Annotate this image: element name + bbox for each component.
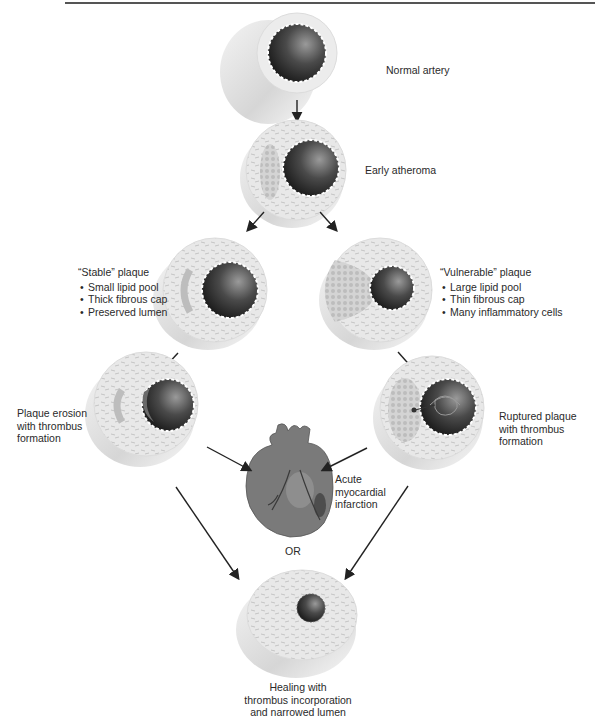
label-ruptured-plaque: Ruptured plaque with thrombus formation	[499, 410, 577, 448]
ruptured-line: formation	[499, 435, 577, 448]
mi-line: myocardial	[335, 486, 386, 499]
label-plaque-erosion: Plaque erosion with thrombus formation	[17, 407, 87, 445]
healing-line: thrombus incorporation	[218, 694, 378, 707]
healing-line: Healing with	[218, 681, 378, 694]
label-acute-mi: Acute myocardial infarction	[335, 473, 386, 511]
label-or: OR	[285, 545, 301, 558]
label-vulnerable-plaque: “Vulnerable” plaque Large lipid pool Thi…	[440, 266, 563, 318]
atherosclerosis-progression-diagram	[0, 0, 595, 726]
stable-plaque-illustration	[153, 238, 267, 350]
vulnerable-plaque-title: “Vulnerable” plaque	[440, 266, 563, 279]
stable-bullet: Small lipid pool	[78, 281, 167, 294]
erosion-line: with thrombus	[17, 420, 87, 433]
mi-line: infarction	[335, 498, 386, 511]
vulnerable-plaque-illustration	[319, 238, 432, 350]
normal-artery-illustration	[220, 13, 337, 124]
vulnerable-bullet: Large lipid pool	[440, 281, 563, 294]
label-healing: Healing with thrombus incorporation and …	[218, 681, 378, 719]
ruptured-line: Ruptured plaque	[499, 410, 577, 423]
stable-bullet: Preserved lumen	[78, 306, 167, 319]
stable-plaque-title: “Stable” plaque	[78, 266, 167, 279]
vulnerable-bullet: Thin fibrous cap	[440, 293, 563, 306]
erosion-line: formation	[17, 432, 87, 445]
ruptured-plaque-illustration	[373, 356, 484, 470]
healing-line: and narrowed lumen	[218, 706, 378, 719]
plaque-erosion-illustration	[85, 352, 198, 467]
label-stable-plaque: “Stable” plaque Small lipid pool Thick f…	[78, 266, 167, 318]
label-normal-artery: Normal artery	[386, 64, 450, 77]
erosion-line: Plaque erosion	[17, 407, 87, 420]
stable-bullet: Thick fibrous cap	[78, 293, 167, 306]
heart-illustration	[246, 424, 333, 537]
ruptured-line: with thrombus	[499, 423, 577, 436]
mi-line: Acute	[335, 473, 386, 486]
vulnerable-bullet: Many inflammatory cells	[440, 306, 563, 319]
healing-artery-illustration	[236, 570, 357, 678]
early-atheroma-illustration	[240, 120, 346, 228]
label-early-atheroma: Early atheroma	[365, 164, 436, 177]
